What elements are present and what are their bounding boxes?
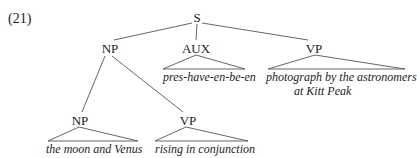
leaf-vp-lower: rising in conjunction xyxy=(155,143,255,155)
example-number: (21) xyxy=(8,12,31,26)
branch-np-vp xyxy=(112,56,183,112)
branch-s-np xyxy=(114,23,192,40)
vp-triangle xyxy=(268,55,405,69)
vp-lower-triangle xyxy=(155,127,248,141)
node-s: S xyxy=(193,11,200,24)
branch-s-aux xyxy=(196,24,197,40)
branch-np-np xyxy=(82,56,105,112)
aux-triangle xyxy=(163,55,245,69)
node-aux: AUX xyxy=(182,42,210,55)
leaf-vp-line2: at Kitt Peak xyxy=(294,85,351,97)
np-lower-triangle xyxy=(48,127,138,141)
leaf-np-lower: the moon and Venus xyxy=(46,143,142,155)
node-np: NP xyxy=(102,42,119,55)
node-vp: VP xyxy=(306,42,323,55)
node-np-lower: NP xyxy=(72,114,89,127)
branch-s-vp xyxy=(202,23,308,40)
node-vp-lower: VP xyxy=(180,114,197,127)
leaf-aux: pres-have-en-be-en xyxy=(163,71,256,83)
leaf-vp-line1: photograph by the astronomers xyxy=(266,71,417,83)
